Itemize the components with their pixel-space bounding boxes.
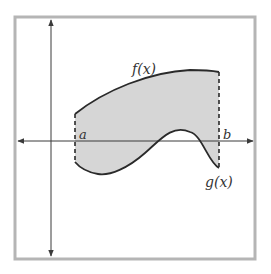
g-label: g(x) [205, 174, 233, 190]
area-between-curves-diagram: f(x) g(x) a b [0, 0, 271, 274]
f-label: f(x) [131, 61, 156, 77]
b-label: b [223, 127, 231, 142]
a-label: a [79, 127, 87, 142]
